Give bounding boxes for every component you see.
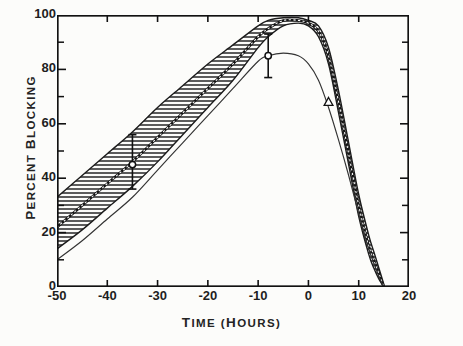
x-axis-title-text: TIME (HOURS)	[182, 317, 281, 329]
x-tick-label: -30	[135, 288, 181, 303]
plot-area	[57, 15, 409, 287]
data-point	[264, 34, 272, 78]
marker-circle	[265, 53, 271, 59]
band-fill	[57, 17, 384, 287]
x-axis-tick-labels: -50-40-30-20-1001020	[0, 288, 463, 314]
x-tick-label: 20	[386, 288, 432, 303]
x-tick-label: 10	[336, 288, 382, 303]
plot-svg	[57, 15, 409, 287]
y-tick-label: 60	[16, 115, 56, 130]
y-tick-label: 80	[16, 60, 56, 75]
confidence-band	[57, 17, 384, 287]
x-tick-label: -20	[185, 288, 231, 303]
x-tick-label: -40	[84, 288, 130, 303]
x-tick-label: -50	[34, 288, 80, 303]
y-tick-label: 20	[16, 224, 56, 239]
x-tick-label: 0	[285, 288, 331, 303]
figure-chart-percent-blocking: PERCENT BLOCKING 020406080100 -50-40-30-…	[0, 0, 463, 346]
x-axis-title: TIME (HOURS)	[0, 315, 463, 330]
y-tick-label: 100	[16, 6, 56, 21]
marker-circle	[129, 161, 135, 167]
y-tick-label: 40	[16, 169, 56, 184]
x-tick-label: -10	[235, 288, 281, 303]
